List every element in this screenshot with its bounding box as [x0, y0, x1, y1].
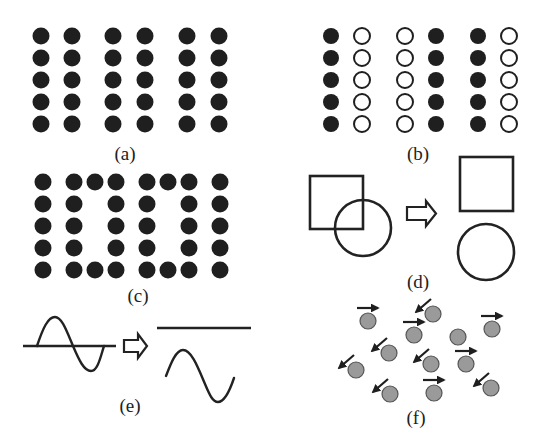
filled-dot [212, 262, 229, 279]
panel-label-f: (f) [407, 407, 426, 429]
filled-dot [137, 94, 154, 111]
filled-dot [323, 28, 339, 44]
open-dot [354, 94, 370, 110]
filled-dot [137, 28, 154, 45]
filled-dot [64, 28, 81, 45]
panel-label-b: (b) [407, 143, 429, 165]
filled-dot [181, 196, 198, 213]
open-dot [397, 28, 413, 44]
separated-circle-shape [458, 224, 514, 280]
filled-dot [66, 196, 83, 213]
panel-b-filled-open-pairs [323, 28, 517, 132]
panel-a-dot-pairs [33, 28, 228, 133]
filled-dot [137, 72, 154, 89]
particle [381, 345, 397, 361]
filled-dot [64, 72, 81, 89]
filled-dot [428, 28, 444, 44]
particle [360, 313, 376, 329]
filled-dot [108, 262, 125, 279]
filled-dot [470, 50, 486, 66]
open-dot [501, 116, 517, 132]
panel-c-digit-dots [35, 174, 229, 279]
filled-dot [212, 240, 229, 257]
hollow-right-arrow-icon [124, 334, 147, 358]
particle [450, 329, 466, 345]
filled-dot [470, 94, 486, 110]
filled-dot [179, 94, 196, 111]
filled-dot [108, 174, 125, 191]
filled-dot [139, 218, 156, 235]
sine-wave-right [166, 350, 234, 402]
particle [483, 380, 499, 396]
filled-dot [470, 28, 486, 44]
particle [425, 306, 441, 322]
figure-canvas: (a) (b) (c) (d) (e) (f) [0, 0, 535, 441]
filled-dot [33, 72, 50, 89]
filled-dot [160, 262, 177, 279]
open-dot [397, 50, 413, 66]
open-dot [354, 28, 370, 44]
panel-f-moving-particles [339, 299, 502, 402]
filled-dot [66, 218, 83, 235]
filled-dot [105, 50, 122, 67]
filled-dot [470, 116, 486, 132]
filled-dot [66, 174, 83, 191]
filled-dot [181, 240, 198, 257]
filled-dot [428, 72, 444, 88]
filled-dot [64, 50, 81, 67]
filled-dot [137, 116, 154, 133]
filled-dot [212, 174, 229, 191]
filled-dot [66, 262, 83, 279]
particle [382, 386, 398, 402]
filled-dot [35, 174, 52, 191]
filled-dot [35, 196, 52, 213]
filled-dot [64, 94, 81, 111]
filled-dot [139, 240, 156, 257]
panel-label-c: (c) [127, 285, 148, 307]
particle [426, 385, 442, 401]
open-dot [397, 72, 413, 88]
filled-dot [323, 94, 339, 110]
open-dot [501, 94, 517, 110]
filled-dot [105, 94, 122, 111]
filled-dot [33, 28, 50, 45]
filled-dot [428, 116, 444, 132]
filled-dot [211, 50, 228, 67]
filled-dot [87, 262, 104, 279]
open-dot [501, 28, 517, 44]
particle [406, 327, 422, 343]
filled-dot [211, 116, 228, 133]
sine-wave-left [37, 317, 104, 371]
filled-dot [108, 196, 125, 213]
filled-dot [181, 174, 198, 191]
filled-dot [35, 262, 52, 279]
open-dot [501, 72, 517, 88]
filled-dot [428, 94, 444, 110]
open-dot [397, 94, 413, 110]
filled-dot [179, 116, 196, 133]
filled-dot [212, 196, 229, 213]
particle [423, 356, 439, 372]
particle [484, 321, 500, 337]
open-dot [397, 116, 413, 132]
filled-dot [211, 72, 228, 89]
filled-dot [64, 116, 81, 133]
filled-dot [33, 94, 50, 111]
particle [348, 362, 364, 378]
panel-label-e: (e) [119, 395, 140, 417]
filled-dot [35, 240, 52, 257]
open-dot [354, 116, 370, 132]
filled-dot [66, 240, 83, 257]
filled-dot [137, 50, 154, 67]
filled-dot [139, 262, 156, 279]
particle [458, 356, 474, 372]
filled-dot [108, 240, 125, 257]
filled-dot [108, 218, 125, 235]
filled-dot [211, 28, 228, 45]
open-dot [354, 50, 370, 66]
panel-e-wave-separation [23, 317, 251, 402]
panel-label-d: (d) [407, 271, 429, 293]
filled-dot [323, 72, 339, 88]
filled-dot [105, 72, 122, 89]
filled-dot [33, 50, 50, 67]
